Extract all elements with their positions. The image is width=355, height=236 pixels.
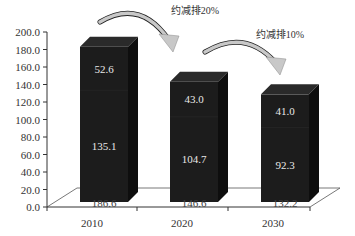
y-axis: 0.020.040.060.080.0100.0120.0140.0160.01… (15, 26, 47, 213)
y-tick-label: 40.0 (21, 166, 41, 178)
total-label: 132.2 (273, 197, 298, 209)
segment-label-top: 52.6 (94, 63, 114, 75)
annotation-label: 约减排10% (256, 28, 304, 40)
y-tick-label: 80.0 (21, 131, 41, 143)
stacked-bar-chart: 0.020.040.060.080.0100.0120.0140.0160.01… (0, 0, 355, 236)
y-tick-label: 180.0 (15, 44, 40, 56)
x-tick-label: 2010 (81, 217, 104, 229)
y-tick-label: 0.0 (26, 201, 40, 213)
y-tick-label: 100.0 (15, 114, 40, 126)
bar-2020: 43.0104.7146.6 (170, 72, 228, 209)
segment-label-bottom: 135.1 (92, 140, 117, 152)
y-tick-label: 60.0 (21, 149, 41, 161)
annotation-label: 约减排20% (171, 4, 219, 16)
x-tick-label: 2020 (171, 217, 194, 229)
segment-label-top: 43.0 (184, 93, 204, 105)
y-tick-label: 120.0 (15, 96, 40, 108)
segment-label-bottom: 104.7 (182, 153, 207, 165)
bar-2010: 52.6135.1186.6 (80, 37, 138, 209)
y-tick-label: 200.0 (15, 26, 40, 38)
y-tick-label: 160.0 (15, 61, 40, 73)
bar-2030: 41.092.3132.2 (261, 84, 319, 208)
x-tick-label: 2030 (262, 217, 285, 229)
total-label: 186.6 (92, 197, 117, 209)
segment-label-bottom: 92.3 (275, 159, 295, 171)
y-tick-label: 140.0 (15, 79, 40, 91)
total-label: 146.6 (182, 197, 207, 209)
segment-label-top: 41.0 (275, 105, 295, 117)
reduction-arrow: 约减排10% (205, 28, 304, 75)
x-axis: 201020202030 (47, 207, 310, 229)
y-tick-label: 20.0 (21, 184, 41, 196)
